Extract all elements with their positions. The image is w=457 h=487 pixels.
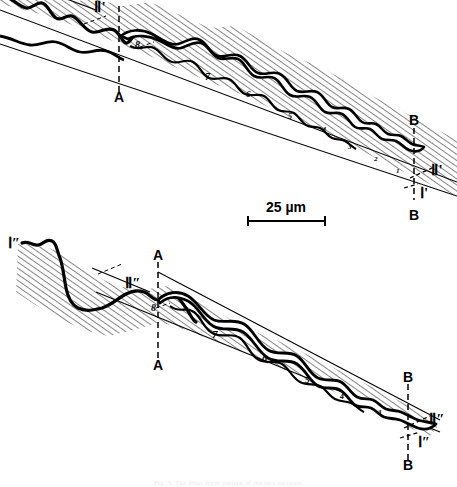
label-A-top: A — [114, 89, 124, 105]
label-II-prime-right: Ⅱ' — [431, 162, 442, 178]
label-B-top: B — [409, 112, 419, 128]
label-II-dprime-right: Ⅱ″ — [429, 411, 444, 427]
lamella-number: 3 — [377, 408, 382, 416]
label-I-dprime-left: Ⅰ″ — [8, 235, 20, 251]
label-I-prime-right: Ⅰ' — [420, 185, 428, 201]
lamella-number: 2 — [373, 155, 378, 163]
lamella-number: 5 — [305, 375, 310, 385]
label-B-top-bottom-panel: B — [403, 369, 413, 385]
label-B-bottom-bottom-panel: B — [403, 457, 413, 473]
lamella-number: 3 — [347, 143, 352, 151]
scale-bar-label: 25 µm — [266, 199, 306, 215]
label-A-bottom-bottom-panel: A — [153, 357, 163, 373]
label-II-prime-left: Ⅱ' — [94, 0, 105, 15]
lamella-number: 6 — [262, 353, 267, 364]
label-I-dprime-right: Ⅰ″ — [418, 434, 430, 450]
lamella-number: 6 — [246, 89, 251, 99]
label-II-dprime-left: Ⅱ″ — [125, 275, 140, 291]
figure-container: 25 µm Ⅱ' A B Ⅱ' Ⅰ' B — [0, 0, 457, 487]
lamella-number: 1 — [396, 167, 400, 175]
lamella-number: 4 — [321, 126, 326, 135]
lamella-number: 8 — [135, 39, 140, 50]
lamella-number: 7 — [212, 328, 218, 340]
figure-caption: Fig. 3. The filter layer pattern of the … — [0, 479, 457, 487]
lamella-number: 8 — [151, 302, 156, 313]
lamella-number: 4 — [339, 392, 344, 401]
label-B-bottom: B — [409, 207, 419, 223]
label-A-top-bottom-panel: A — [153, 247, 163, 263]
figure-svg: 25 µm Ⅱ' A B Ⅱ' Ⅰ' B — [0, 0, 457, 487]
lamella-number: 5 — [288, 112, 292, 121]
